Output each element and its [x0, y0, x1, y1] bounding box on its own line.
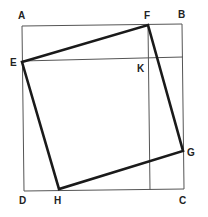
label-d: D — [19, 195, 26, 206]
label-g: G — [187, 147, 195, 158]
label-b: B — [178, 9, 185, 20]
inner-square-efgh — [22, 25, 183, 189]
label-h: H — [54, 195, 61, 206]
label-c: C — [179, 195, 186, 206]
label-e: E — [10, 57, 17, 68]
guide-line-fk — [148, 25, 150, 190]
outer-square-abcd — [22, 24, 184, 191]
label-k: K — [137, 63, 145, 74]
label-f: F — [144, 10, 150, 21]
geometry-diagram: A B C D E F G H K — [0, 0, 208, 217]
label-a: A — [18, 10, 25, 21]
